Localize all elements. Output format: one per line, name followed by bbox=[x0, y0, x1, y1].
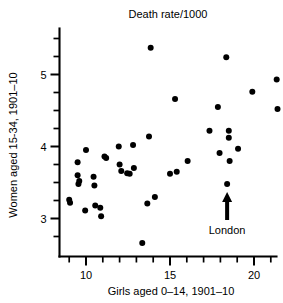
data-point bbox=[139, 240, 145, 246]
x-tick-label: 15 bbox=[164, 269, 176, 281]
up-arrow-icon bbox=[222, 192, 232, 220]
x-tick-label: 10 bbox=[80, 269, 92, 281]
scatter-plot-figure: 345101520 London Death rate/1000 Girls a… bbox=[0, 0, 283, 303]
data-point bbox=[224, 181, 230, 187]
data-point bbox=[226, 135, 232, 141]
data-point bbox=[217, 150, 223, 156]
data-point bbox=[103, 155, 109, 161]
data-point bbox=[117, 162, 123, 168]
data-point bbox=[75, 172, 81, 178]
data-point bbox=[148, 45, 154, 51]
data-point bbox=[127, 171, 133, 177]
x-tick-label: 20 bbox=[248, 269, 260, 281]
data-point bbox=[226, 128, 232, 134]
data-point bbox=[131, 165, 137, 171]
data-point bbox=[83, 147, 89, 153]
data-point bbox=[91, 182, 97, 188]
data-point bbox=[91, 174, 97, 180]
y-tick-label: 3 bbox=[40, 213, 46, 225]
data-point bbox=[227, 158, 233, 164]
data-point bbox=[152, 194, 158, 200]
axes bbox=[60, 29, 277, 257]
annotations: London bbox=[209, 192, 246, 236]
data-point bbox=[172, 96, 178, 102]
data-point bbox=[206, 128, 212, 134]
data-point bbox=[118, 168, 124, 174]
data-point bbox=[235, 146, 241, 152]
annotation-label-london: London bbox=[209, 224, 246, 236]
data-point bbox=[75, 159, 81, 165]
y-axis-label: Women aged 15-34, 1901–10 bbox=[7, 72, 19, 217]
data-point bbox=[215, 104, 221, 110]
chart-title: Death rate/1000 bbox=[129, 8, 208, 20]
data-point bbox=[82, 208, 88, 214]
x-axis-label: Girls aged 0–14, 1901–10 bbox=[108, 285, 235, 297]
data-point bbox=[167, 171, 173, 177]
data-point bbox=[174, 169, 180, 175]
data-point bbox=[98, 213, 104, 219]
data-point bbox=[67, 200, 73, 206]
data-point bbox=[97, 205, 103, 211]
y-tick-label: 5 bbox=[40, 69, 46, 81]
data-point bbox=[130, 142, 136, 148]
data-point bbox=[146, 133, 152, 139]
data-point bbox=[274, 77, 280, 83]
data-point bbox=[144, 200, 150, 206]
plot-canvas: 345101520 London Death rate/1000 Girls a… bbox=[0, 0, 283, 303]
data-point bbox=[275, 106, 281, 112]
y-tick-label: 4 bbox=[40, 141, 46, 153]
data-point bbox=[185, 158, 191, 164]
data-point bbox=[76, 178, 82, 184]
data-point bbox=[116, 144, 122, 150]
data-point bbox=[223, 54, 229, 60]
data-points bbox=[66, 45, 280, 246]
axis-tick-labels: 345101520 bbox=[40, 69, 260, 281]
data-point bbox=[249, 89, 255, 95]
